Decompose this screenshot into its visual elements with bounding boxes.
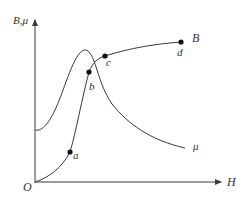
b-curve-label: B [192, 31, 200, 45]
point-a-label: a [73, 149, 79, 161]
point-b-label: b [89, 80, 95, 92]
point-c-label: c [106, 56, 111, 68]
point-d-label: d [177, 46, 183, 58]
y-axis-label: B,μ [13, 14, 28, 26]
bh-mu-diagram: B,μ H O B μ a b c d [0, 0, 251, 204]
point-b-marker [86, 69, 91, 74]
point-a-marker [67, 149, 72, 154]
point-d-marker [178, 39, 183, 44]
mu-curve-label: μ [192, 140, 199, 152]
x-axis-label: H [226, 175, 237, 189]
origin-label: O [23, 180, 32, 194]
